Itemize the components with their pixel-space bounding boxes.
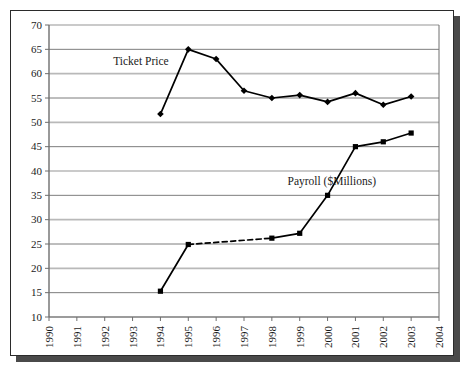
marker-0-6 <box>324 99 331 106</box>
x-tick-label-1991: 1991 <box>71 326 83 348</box>
x-tick-label-1996: 1996 <box>210 326 222 349</box>
x-tick-label-1992: 1992 <box>99 326 111 348</box>
series-line-0 <box>160 49 411 114</box>
y-tick-label-70: 70 <box>31 19 43 31</box>
grid-lines <box>49 25 439 317</box>
marker-0-8 <box>380 102 387 109</box>
y-axis <box>45 25 49 317</box>
figure-frame: 10152025303540455055606570 1990199119921… <box>10 10 454 356</box>
y-tick-label-10: 10 <box>31 311 43 323</box>
marker-1-3 <box>297 231 302 236</box>
y-tick-label-25: 25 <box>31 238 43 250</box>
y-tick-label-45: 45 <box>31 140 43 152</box>
marker-0-5 <box>296 92 303 99</box>
line-chart: 10152025303540455055606570 1990199119921… <box>11 11 455 357</box>
plot-wrapper: 10152025303540455055606570 1990199119921… <box>11 11 455 357</box>
x-axis <box>49 25 439 321</box>
marker-1-5 <box>353 144 358 149</box>
y-axis-tick-labels: 10152025303540455055606570 <box>31 19 43 323</box>
y-tick-label-35: 35 <box>31 189 43 201</box>
y-tick-label-65: 65 <box>31 43 43 55</box>
x-tick-label-1997: 1997 <box>238 326 250 349</box>
x-tick-label-1998: 1998 <box>266 326 278 349</box>
x-tick-label-2001: 2001 <box>349 326 361 348</box>
x-tick-label-1995: 1995 <box>182 326 194 349</box>
chart-annotations: Ticket PricePayroll ($Millions) <box>113 55 376 188</box>
marker-0-9 <box>408 93 415 100</box>
x-tick-label-2003: 2003 <box>405 326 417 349</box>
marker-0-1 <box>185 46 192 53</box>
marker-1-6 <box>381 139 386 144</box>
y-tick-label-20: 20 <box>31 262 43 274</box>
x-tick-label-2004: 2004 <box>433 326 445 349</box>
marker-1-7 <box>409 130 414 135</box>
x-tick-label-1990: 1990 <box>43 326 55 349</box>
marker-1-1 <box>186 242 191 247</box>
y-tick-label-15: 15 <box>31 286 43 298</box>
payroll-label: Payroll ($Millions) <box>288 175 377 188</box>
chart-screenshot-root: 10152025303540455055606570 1990199119921… <box>0 0 467 370</box>
marker-0-4 <box>269 95 276 102</box>
x-tick-label-2002: 2002 <box>377 326 389 348</box>
x-tick-label-1994: 1994 <box>154 326 166 349</box>
marker-1-4 <box>325 193 330 198</box>
series-markers <box>157 46 414 294</box>
x-tick-label-1993: 1993 <box>127 326 139 349</box>
ticket-price-label: Ticket Price <box>113 55 168 67</box>
marker-1-2 <box>269 236 274 241</box>
x-tick-label-1999: 1999 <box>294 326 306 349</box>
y-tick-label-55: 55 <box>31 92 43 104</box>
x-tick-label-2000: 2000 <box>322 326 334 349</box>
y-tick-label-60: 60 <box>31 67 43 79</box>
y-tick-label-30: 30 <box>31 213 43 225</box>
marker-1-0 <box>158 289 163 294</box>
x-axis-tick-labels: 1990199119921993199419951996199719981999… <box>43 326 445 349</box>
marker-0-0 <box>157 111 164 118</box>
y-tick-label-40: 40 <box>31 165 43 177</box>
marker-0-7 <box>352 90 359 97</box>
y-tick-label-50: 50 <box>31 116 43 128</box>
series-line-1-seg-1 <box>188 238 272 244</box>
